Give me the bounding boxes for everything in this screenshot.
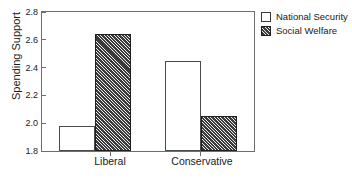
y-axis-title: Spending Support: [10, 0, 22, 116]
y-axis-tick-mark: [42, 123, 46, 124]
y-axis-tick-mark: [42, 12, 46, 13]
legend-label: Social Welfare: [276, 25, 337, 36]
y-axis-tick-label: 2.4: [25, 63, 38, 73]
y-axis-tick-2.6: 2.6: [25, 35, 42, 45]
x-axis-label-conservative: Conservative: [171, 155, 232, 167]
x-axis-label-liberal: Liberal: [94, 155, 126, 167]
y-axis-tick-1.8: 1.8: [25, 146, 42, 156]
y-axis-tick-mark: [42, 39, 46, 40]
y-axis-tick-2.0: 2.0: [25, 118, 42, 128]
y-axis-tick-mark: [42, 67, 46, 68]
bar-liberal-social-welfare: [95, 34, 131, 151]
y-axis-tick-2.4: 2.4: [25, 63, 42, 73]
y-axis-tick-mark: [42, 151, 46, 152]
legend: National Security Social Welfare: [261, 11, 348, 36]
legend-swatch-solid-icon: [261, 12, 271, 22]
y-axis-tick-2.2: 2.2: [25, 90, 42, 100]
legend-swatch-hatch-icon: [261, 26, 271, 36]
bar-liberal-national-security: [59, 126, 95, 151]
y-axis-tick-label: 1.8: [25, 146, 38, 156]
legend-item-national-security[interactable]: National Security: [261, 11, 348, 22]
y-axis-tick-label: 2.2: [25, 90, 38, 100]
legend-label: National Security: [276, 11, 348, 22]
y-axis-tick-label: 2.0: [25, 118, 38, 128]
bar-conservative-social-welfare: [201, 116, 237, 151]
y-axis-tick-label: 2.6: [25, 35, 38, 45]
bar-chart: Spending Support 2.8 2.6 2.4 2.2 2.0 1.8: [0, 0, 352, 183]
plot-area: 2.8 2.6 2.4 2.2 2.0 1.8: [41, 11, 255, 152]
y-axis-tick-2.8: 2.8: [25, 7, 42, 17]
y-axis-tick-mark: [42, 95, 46, 96]
y-axis-tick-label: 2.8: [25, 7, 38, 17]
legend-item-social-welfare[interactable]: Social Welfare: [261, 25, 348, 36]
bar-conservative-national-security: [165, 61, 201, 151]
